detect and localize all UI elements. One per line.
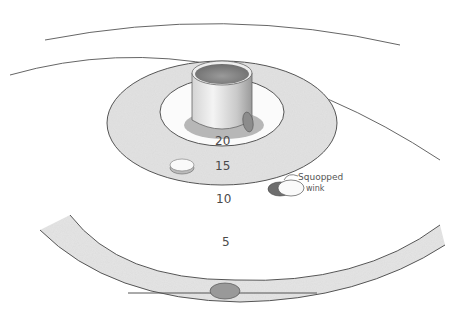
squopped-wink <box>268 180 304 196</box>
annotation-arrow <box>284 175 298 180</box>
score-label-10: 10 <box>216 192 231 206</box>
annotation-line-1: Squopped <box>298 172 343 182</box>
annotation-line-2: wink <box>306 184 325 193</box>
score-label-15: 15 <box>215 159 230 173</box>
pot-inside <box>195 64 249 84</box>
wink-on-line <box>210 283 240 299</box>
ring-5-band <box>40 215 445 302</box>
wink-in-15 <box>170 159 194 174</box>
score-label-20: 20 <box>215 134 230 148</box>
tiddlywinks-diagram: 20 15 10 5 Squopped wink <box>0 0 453 335</box>
score-label-5: 5 <box>222 235 230 249</box>
